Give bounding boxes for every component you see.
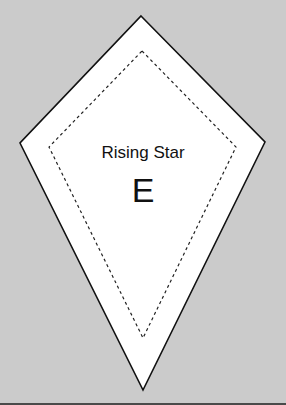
template-name-label: Rising Star: [0, 143, 286, 163]
piece-letter-label: E: [0, 171, 286, 209]
template-canvas: Rising Star E: [0, 0, 286, 405]
